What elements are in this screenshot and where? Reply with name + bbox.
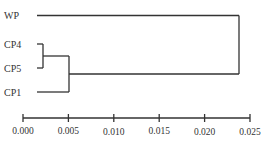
tick-label: 0.005: [58, 126, 80, 136]
tick-label: 0.000: [12, 126, 34, 136]
tick-label: 0.020: [194, 127, 216, 137]
leaf-label-wp: WP: [4, 10, 19, 21]
tick-label: 0.010: [103, 127, 125, 137]
dendrogram-branches: [37, 16, 239, 93]
tick-label: 0.015: [149, 126, 171, 136]
scale-axis: 0.000 0.005 0.010 0.015 0.020 0.025: [12, 114, 261, 137]
leaf-label-cp1: CP1: [4, 87, 21, 98]
leaf-label-cp4: CP4: [4, 39, 21, 50]
leaf-label-cp5: CP5: [4, 63, 21, 74]
tick-label: 0.025: [239, 127, 261, 137]
dendrogram: WP CP4 CP5 CP1 0.000 0.005 0.010 0.015 0…: [0, 0, 267, 149]
